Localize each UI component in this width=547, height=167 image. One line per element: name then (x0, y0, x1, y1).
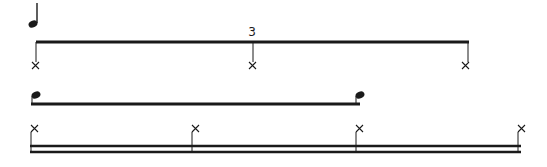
eighth-note-1 (30, 90, 41, 104)
sixteenth-note-3 (356, 125, 363, 153)
sixteenth-note-1 (31, 125, 38, 153)
triplet-note-3 (462, 42, 469, 69)
sixteenth-note-group (30, 125, 525, 153)
x-notehead-icon (356, 125, 363, 132)
quarter-note-icon (27, 3, 38, 29)
x-notehead-icon (31, 125, 38, 132)
eighth-note-group (30, 90, 365, 104)
x-notehead-icon (518, 125, 525, 132)
x-notehead-icon (192, 125, 199, 132)
x-notehead-icon (249, 62, 256, 69)
eighth-note-2 (354, 90, 365, 104)
sixteenth-note-4 (518, 125, 525, 153)
triplet-group: 3 (32, 25, 469, 69)
x-notehead-icon (32, 62, 39, 69)
tuplet-number: 3 (248, 25, 256, 39)
triplet-note-2 (249, 42, 256, 69)
rhythm-diagram: 3 (0, 0, 547, 167)
triplet-note-1 (32, 42, 39, 69)
x-notehead-icon (462, 62, 469, 69)
sixteenth-note-2 (192, 125, 199, 153)
